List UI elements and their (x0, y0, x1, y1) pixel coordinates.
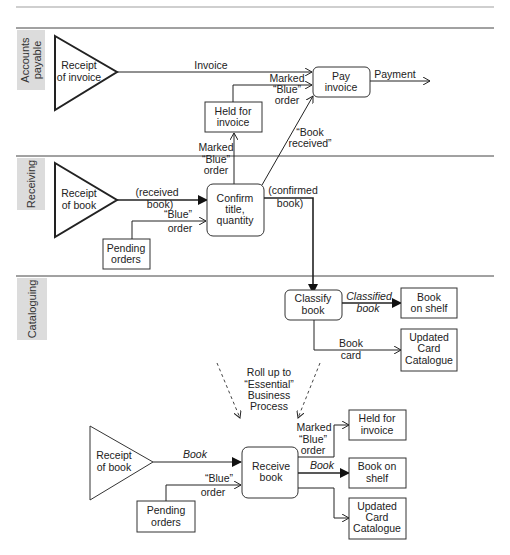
flow-label: order (275, 94, 300, 106)
held-for-invoice-store: Held for invoice (205, 102, 262, 132)
rollup-arrow-left (217, 363, 240, 418)
receipt-of-invoice-event: Receipt of invoice (55, 36, 117, 110)
pending-orders-store: Pending orders (103, 239, 150, 269)
pay-invoice-process: Pay invoice (313, 67, 370, 97)
svg-text:invoice: invoice (361, 424, 394, 436)
svg-text:payable: payable (31, 41, 43, 80)
lane-receiving: Receiving (17, 158, 45, 210)
svg-text:invoice: invoice (325, 81, 358, 93)
rollup-note: Roll up to “Essential” Business Process (244, 366, 294, 412)
svg-text:Book on: Book on (358, 460, 397, 472)
flow-label: Book (183, 448, 208, 460)
updated-card-catalogue-store: Updated Card Catalogue (401, 329, 457, 371)
flow-label: “Blue” (164, 208, 193, 220)
flow-label: Marked (296, 421, 331, 433)
flow-label: (confirmed (268, 184, 318, 196)
receipt-of-book-event: Receipt of book (55, 163, 117, 237)
flow-label: card (341, 349, 362, 361)
svg-text:Catalogue: Catalogue (353, 522, 401, 534)
svg-text:Process: Process (250, 400, 288, 412)
book-on-shelf-store-essential: Book on shelf (349, 458, 406, 488)
process-diagram: Accounts payable Receiving Cataloguing R… (0, 0, 510, 555)
svg-text:orders: orders (111, 253, 141, 265)
flow-label: (received (135, 186, 178, 198)
flow-label: order (204, 164, 229, 176)
svg-text:Held for: Held for (359, 412, 396, 424)
svg-text:quantity: quantity (217, 214, 255, 226)
svg-text:Catalogue: Catalogue (405, 354, 453, 366)
svg-text:book: book (302, 304, 326, 316)
flow-label: book (357, 302, 381, 314)
payment-flow-label: Payment (374, 68, 416, 80)
svg-text:orders: orders (151, 516, 181, 528)
flow-label: Book (310, 459, 335, 471)
svg-text:Classify: Classify (295, 292, 333, 304)
lane-cataloguing: Cataloguing (17, 278, 47, 340)
flow-label: order (301, 444, 326, 456)
receive-book-process: Receive book (242, 447, 298, 498)
flow-label: order (201, 486, 226, 498)
svg-text:invoice: invoice (217, 116, 250, 128)
updated-card-catalogue-store-essential: Updated Card Catalogue (349, 498, 406, 539)
svg-text:Receipt: Receipt (61, 59, 97, 71)
receipt-of-book-event-essential: Receipt of book (90, 426, 153, 500)
confirm-title-quantity-process: Confirm title, quantity (207, 184, 264, 236)
svg-text:shelf: shelf (366, 472, 388, 484)
invoice-flow-label: Invoice (194, 59, 227, 71)
confirmed-book-flow (264, 198, 313, 293)
svg-text:Pending: Pending (147, 504, 186, 516)
flow-label: book) (277, 197, 303, 209)
svg-text:Card: Card (418, 342, 441, 354)
flow-label: Marked (198, 141, 233, 153)
rollup-arrow-right (298, 363, 320, 418)
flow-label: received” (288, 137, 332, 149)
lane-accounts-payable: Accounts payable (17, 30, 45, 90)
svg-text:of book: of book (97, 461, 132, 473)
svg-text:of book: of book (62, 199, 97, 211)
held-for-invoice-store-essential: Held for invoice (349, 410, 406, 440)
pending-orders-store-essential: Pending orders (137, 501, 195, 532)
svg-text:Receipt: Receipt (61, 187, 97, 199)
svg-text:of invoice: of invoice (57, 71, 102, 83)
svg-text:Receiving: Receiving (25, 160, 37, 208)
svg-text:Accounts: Accounts (19, 37, 31, 83)
classify-book-process: Classify book (285, 290, 342, 320)
svg-text:Receipt: Receipt (96, 449, 132, 461)
flow-label: “Blue” (205, 472, 234, 484)
flow-label: order (168, 222, 193, 234)
svg-text:on shelf: on shelf (411, 302, 448, 314)
book-on-shelf-store: Book on shelf (401, 288, 457, 318)
flow-label: Book (339, 337, 364, 349)
flow-label: Classified (346, 290, 393, 302)
card-catalogue-flow-essential (298, 488, 349, 518)
svg-text:book: book (260, 471, 284, 483)
svg-text:Roll up to: Roll up to (247, 366, 292, 378)
svg-text:Cataloguing: Cataloguing (26, 280, 38, 339)
